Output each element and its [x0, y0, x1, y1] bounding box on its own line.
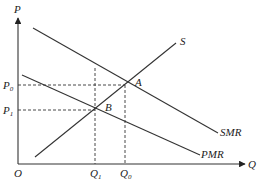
q1-label: Q1 — [90, 167, 101, 181]
p-axis-label: P — [13, 3, 21, 15]
supply-label: S — [180, 35, 186, 47]
point-b-label: B — [105, 101, 112, 113]
pmr-curve — [22, 75, 200, 155]
economics-diagram: P Q O P0 P1 Q1 Q0 S SMR PMR A B — [0, 0, 257, 189]
pmr-label: PMR — [200, 148, 224, 160]
point-a-label: A — [134, 76, 142, 88]
origin-label: O — [14, 167, 22, 179]
q0-label: Q0 — [120, 167, 132, 181]
smr-curve — [33, 28, 218, 133]
smr-label: SMR — [220, 126, 242, 138]
supply-curve — [35, 43, 176, 157]
p1-label: P1 — [2, 104, 13, 118]
p0-label: P0 — [2, 79, 14, 93]
q-axis-label: Q — [248, 158, 256, 170]
